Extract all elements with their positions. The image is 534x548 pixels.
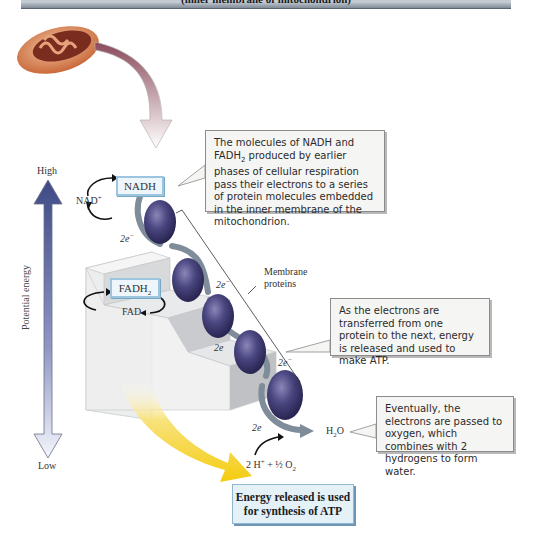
axis-high-label: High xyxy=(37,165,57,176)
axis-title: Potential energy xyxy=(20,265,31,330)
water-arrow-head-icon xyxy=(300,424,314,438)
water-label: H2O xyxy=(326,425,344,439)
electron-label-5: 2e xyxy=(252,422,261,433)
protein-5 xyxy=(267,370,303,420)
nadh-box: NADH xyxy=(116,176,164,196)
fad-label: FAD xyxy=(122,306,141,317)
axis-low-label: Low xyxy=(38,460,56,471)
zoom-arrow-icon xyxy=(95,42,172,148)
protein-3 xyxy=(202,294,234,338)
protein-4 xyxy=(234,330,266,374)
reactants-label: 2 H+ + ½ O2 xyxy=(246,458,296,473)
electron-label-2: 2e− xyxy=(216,278,230,290)
callout-atp-transfer: As the electrons are transferred from on… xyxy=(330,298,490,356)
fadh2-box: FADH2 xyxy=(110,278,160,298)
protein-2 xyxy=(172,258,204,302)
nad-plus-label: NAD+ xyxy=(76,194,102,206)
callout-oxygen: Eventually, the electrons are passed to … xyxy=(376,396,514,452)
mitochondrion-illustration xyxy=(12,18,105,82)
electron-label-1: 2e− xyxy=(120,232,134,244)
electron-label-3: 2e xyxy=(214,342,223,353)
fadh2-label: FADH xyxy=(119,282,148,294)
protein-1 xyxy=(144,200,176,244)
nadh-label: NADH xyxy=(124,180,156,192)
callout-nadh-fadh2: The molecules of NADH and FADH2 produced… xyxy=(205,130,385,212)
atp-synthesis-box: Energy released is used for synthesis of… xyxy=(232,484,354,524)
membrane-proteins-label: Membrane proteins xyxy=(264,266,307,290)
potential-energy-axis-icon xyxy=(34,180,62,458)
electron-label-4: 2e− xyxy=(278,356,292,368)
